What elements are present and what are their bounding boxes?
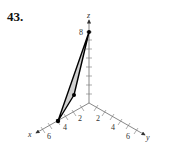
z-axis-label: z [86, 11, 91, 20]
y-tick-4: 4 [111, 123, 115, 132]
triangle [56, 30, 91, 123]
3d-coordinate-diagram: z 8 x 2 4 6 y 2 4 6 [0, 0, 183, 160]
x-tick-4: 4 [63, 123, 67, 132]
y-axis-label: y [145, 133, 150, 142]
vertex-top [87, 30, 91, 34]
z-tick-8: 8 [79, 28, 83, 37]
x-tick-2: 2 [78, 114, 82, 123]
y-axis: y 2 4 6 [89, 103, 150, 142]
vertex-bottom [56, 119, 60, 123]
y-tick-2: 2 [96, 114, 100, 123]
x-axis-label: x [27, 130, 32, 139]
x-tick-6: 6 [47, 132, 51, 141]
y-tick-6: 6 [126, 132, 130, 141]
vertex-middle [72, 93, 76, 97]
